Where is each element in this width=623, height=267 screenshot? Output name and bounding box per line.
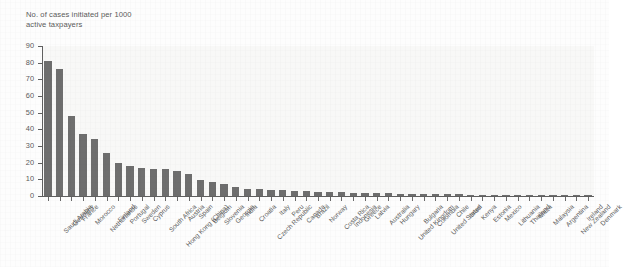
x-tick-mark bbox=[107, 197, 108, 201]
x-tick-mark bbox=[529, 197, 530, 201]
x-tick-mark bbox=[248, 197, 249, 201]
x-tick-mark bbox=[271, 197, 272, 201]
y-tick-label: 70 bbox=[6, 75, 34, 83]
bar bbox=[150, 169, 157, 197]
bar bbox=[209, 182, 216, 196]
x-tick-mark bbox=[341, 197, 342, 201]
x-tick-mark bbox=[353, 197, 354, 201]
bar bbox=[279, 190, 286, 196]
x-tick-mark bbox=[165, 197, 166, 201]
x-tick-mark bbox=[95, 197, 96, 201]
bar bbox=[526, 195, 533, 196]
y-tick-label: 20 bbox=[6, 159, 34, 167]
x-tick-mark bbox=[388, 197, 389, 201]
bar bbox=[185, 174, 192, 196]
bar bbox=[350, 193, 357, 196]
y-tick-label: 60 bbox=[6, 92, 34, 100]
x-tick-label: India bbox=[243, 203, 258, 218]
bar bbox=[385, 193, 392, 196]
bar bbox=[455, 194, 462, 196]
bar bbox=[115, 163, 122, 196]
bar bbox=[56, 69, 63, 196]
x-tick-mark bbox=[365, 197, 366, 201]
x-tick-mark bbox=[518, 197, 519, 201]
bar bbox=[173, 171, 180, 196]
x-tick-mark bbox=[224, 197, 225, 201]
x-tick-mark bbox=[588, 197, 589, 201]
bar bbox=[549, 195, 556, 196]
x-tick-label: Norway bbox=[328, 203, 349, 224]
x-tick-mark bbox=[177, 197, 178, 201]
x-tick-mark bbox=[189, 197, 190, 201]
x-tick-mark bbox=[482, 197, 483, 201]
bar bbox=[514, 195, 521, 196]
bar bbox=[244, 189, 251, 197]
x-tick-mark bbox=[142, 197, 143, 201]
bar bbox=[491, 195, 498, 196]
x-tick-mark bbox=[400, 197, 401, 201]
x-tick-mark bbox=[459, 197, 460, 201]
bar bbox=[561, 195, 568, 196]
bar bbox=[408, 194, 415, 196]
x-tick-mark bbox=[71, 197, 72, 201]
y-axis-title: No. of cases initiated per 1000 active t… bbox=[26, 10, 132, 30]
bar bbox=[538, 195, 545, 196]
bar bbox=[373, 193, 380, 196]
bar bbox=[361, 193, 368, 196]
bar bbox=[126, 166, 133, 196]
bar bbox=[256, 189, 263, 196]
x-tick-mark bbox=[447, 197, 448, 201]
bars-group bbox=[42, 46, 594, 196]
x-tick-mark bbox=[154, 197, 155, 201]
bar bbox=[232, 187, 239, 196]
bar bbox=[103, 153, 110, 196]
bar bbox=[303, 191, 310, 196]
bar bbox=[467, 195, 474, 197]
x-tick-mark bbox=[506, 197, 507, 201]
x-tick-mark bbox=[330, 197, 331, 201]
y-tick-label: 10 bbox=[6, 175, 34, 183]
bar bbox=[432, 194, 439, 196]
bar bbox=[397, 194, 404, 197]
x-tick-mark bbox=[295, 197, 296, 201]
bar bbox=[267, 190, 274, 196]
bar bbox=[338, 192, 345, 196]
bar bbox=[420, 194, 427, 196]
x-tick-label: Croatia bbox=[257, 203, 277, 223]
bar bbox=[479, 195, 486, 196]
x-tick-mark bbox=[541, 197, 542, 201]
bar bbox=[138, 168, 145, 196]
bar bbox=[220, 184, 227, 196]
y-tick-mark bbox=[38, 196, 43, 197]
x-tick-mark bbox=[377, 197, 378, 201]
bar bbox=[291, 191, 298, 196]
x-tick-mark bbox=[565, 197, 566, 201]
y-tick-label: 50 bbox=[6, 109, 34, 117]
y-tick-label: 80 bbox=[6, 59, 34, 67]
bar bbox=[91, 139, 98, 196]
x-tick-mark bbox=[435, 197, 436, 201]
y-tick-label: 40 bbox=[6, 125, 34, 133]
x-tick-mark bbox=[48, 197, 49, 201]
y-tick-label: 90 bbox=[6, 42, 34, 50]
x-tick-mark bbox=[318, 197, 319, 201]
x-tick-mark bbox=[283, 197, 284, 201]
bar bbox=[314, 192, 321, 197]
bar bbox=[502, 195, 509, 196]
x-tick-mark bbox=[306, 197, 307, 201]
x-tick-mark bbox=[553, 197, 554, 201]
x-tick-mark bbox=[471, 197, 472, 201]
x-tick-mark bbox=[130, 197, 131, 201]
y-tick-label: 30 bbox=[6, 142, 34, 150]
x-tick-label: Italy bbox=[278, 203, 292, 217]
y-tick-label: 0 bbox=[6, 192, 34, 200]
bar bbox=[573, 195, 580, 196]
x-tick-label: Malta bbox=[537, 203, 553, 219]
bar bbox=[444, 194, 451, 196]
x-tick-mark bbox=[201, 197, 202, 201]
x-tick-mark bbox=[494, 197, 495, 201]
x-tick-mark bbox=[118, 197, 119, 201]
bar bbox=[326, 192, 333, 196]
bar bbox=[162, 169, 169, 196]
bar bbox=[584, 195, 591, 196]
